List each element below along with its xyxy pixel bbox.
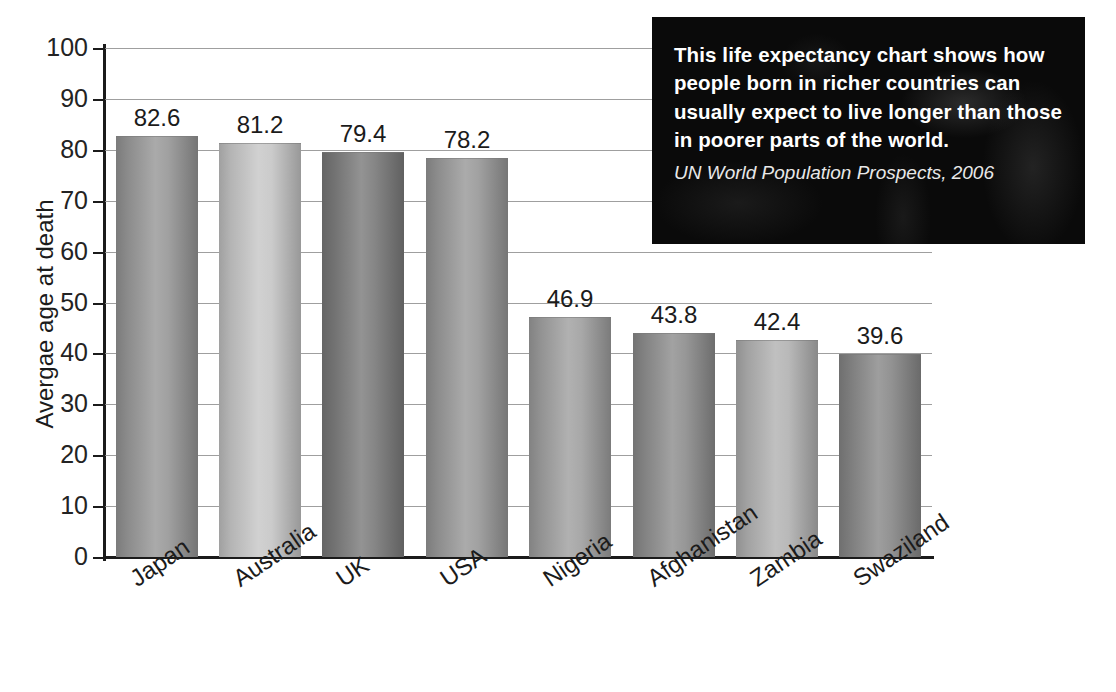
bar-value-label-afghanistan: 43.8	[619, 303, 729, 327]
y-tick-label-10: 10	[18, 493, 88, 518]
bar-usa[interactable]	[426, 158, 508, 557]
y-tick-label-90: 90	[18, 86, 88, 111]
bar-value-label-uk: 79.4	[308, 122, 418, 146]
bar-value-label-swaziland: 39.6	[825, 324, 935, 348]
y-tick-label-20: 20	[18, 442, 88, 467]
bar-value-label-zambia: 42.4	[722, 310, 832, 334]
y-tick-label-80: 80	[18, 137, 88, 162]
y-tick-label-0: 0	[18, 544, 88, 569]
bar-value-label-japan: 82.6	[102, 106, 212, 130]
y-axis-ticks: 0102030405060708090100	[0, 0, 88, 692]
bar-afghanistan[interactable]	[633, 333, 715, 557]
y-tick-label-70: 70	[18, 188, 88, 213]
y-tick-label-30: 30	[18, 391, 88, 416]
y-tick-label-60: 60	[18, 239, 88, 264]
bar-value-label-usa: 78.2	[412, 128, 522, 152]
bar-value-label-nigeria: 46.9	[515, 287, 625, 311]
y-tick-label-40: 40	[18, 340, 88, 365]
y-tick-label-100: 100	[18, 35, 88, 60]
bar-australia[interactable]	[219, 143, 301, 557]
bar-nigeria[interactable]	[529, 317, 611, 557]
bar-swaziland[interactable]	[839, 354, 921, 557]
bar-japan[interactable]	[116, 136, 198, 557]
annotation-source: UN World Population Prospects, 2006	[674, 161, 1063, 186]
y-tick-label-50: 50	[18, 290, 88, 315]
bar-value-label-australia: 81.2	[205, 113, 315, 137]
annotation-body: This life expectancy chart shows how peo…	[674, 41, 1063, 154]
bar-uk[interactable]	[322, 152, 404, 557]
annotation-panel: This life expectancy chart shows how peo…	[652, 17, 1085, 244]
